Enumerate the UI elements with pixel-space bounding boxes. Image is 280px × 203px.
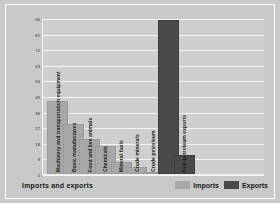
bar-group: Machinery and transportation equipmentBa…	[43, 19, 264, 174]
category-label: Crude petroleum	[150, 130, 156, 172]
category-label: Machinery and transportation equipment	[55, 71, 61, 172]
legend-label: Imports	[193, 182, 219, 189]
legend-item[interactable]: Imports	[175, 181, 219, 189]
y-axis-tick-label: 54	[35, 79, 40, 84]
category-label: Crude minerals	[134, 134, 140, 172]
y-axis-tick-label: 27	[35, 126, 40, 131]
chart-legend: ImportsExports	[175, 181, 268, 189]
y-axis-tick-label: 81	[35, 32, 40, 37]
y-axis-tick-label: 90	[35, 17, 40, 22]
plot-area: Machinery and transportation equipmentBa…	[42, 19, 264, 175]
category-label: Basic manufactures	[71, 123, 77, 172]
y-axis-tick-label: 72	[35, 48, 40, 53]
x-axis-title: Imports and exports	[22, 182, 93, 189]
legend-swatch	[224, 181, 239, 189]
category-label: Food and live animals	[87, 118, 93, 172]
y-axis-tick-labels: 90817263544536271890	[22, 19, 40, 175]
y-axis-tick-label: 45	[35, 95, 40, 100]
gridline	[43, 175, 264, 176]
y-axis-tick-label: 63	[35, 63, 40, 68]
y-axis-tick-label: 36	[35, 110, 40, 115]
bar-slot: Non-petroleum exports	[174, 19, 195, 174]
y-axis-tick-label: 0	[38, 173, 40, 178]
y-axis-tick-label: 18	[35, 141, 40, 146]
category-label: Chemicals	[102, 146, 108, 172]
category-label: Mineral fuels	[118, 140, 124, 172]
legend-label: Exports	[242, 182, 268, 189]
legend-swatch	[175, 181, 190, 189]
chart-figure: Percentage of total 90817263544536271890…	[0, 0, 280, 203]
y-axis-tick-label: 9	[38, 157, 40, 162]
legend-item[interactable]: Exports	[224, 181, 268, 189]
category-label: Non-petroleum exports	[181, 115, 187, 172]
